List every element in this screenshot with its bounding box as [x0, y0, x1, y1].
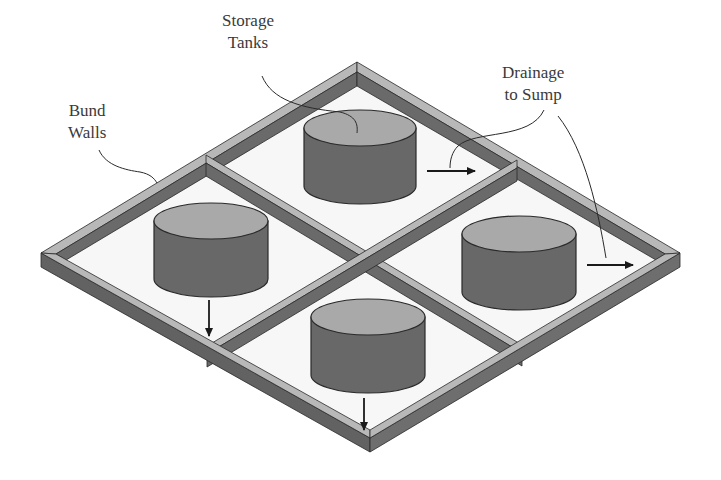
label-bund-walls: Bund Walls: [68, 100, 106, 144]
label-storage-tanks-line2: Tanks: [222, 32, 274, 54]
tank-lid: [462, 216, 576, 252]
label-drainage-to-sump: Drainage to Sump: [502, 62, 564, 106]
tank-lid: [304, 110, 416, 146]
tank-left: [154, 203, 268, 297]
label-bund-walls-line2: Walls: [68, 122, 106, 144]
label-drainage-line2: to Sump: [502, 84, 564, 106]
tank-lid: [311, 299, 425, 335]
leader-bund-walls: [99, 150, 157, 183]
tank-bottom: [311, 299, 425, 393]
label-bund-walls-line1: Bund: [68, 100, 106, 122]
label-storage-tanks-line1: Storage: [222, 10, 274, 32]
label-drainage-line1: Drainage: [502, 62, 564, 84]
tank-top: [304, 110, 416, 204]
tank-right: [462, 216, 576, 310]
label-storage-tanks: Storage Tanks: [222, 10, 274, 54]
tank-lid: [154, 203, 268, 239]
bund-diagram: [0, 0, 721, 480]
